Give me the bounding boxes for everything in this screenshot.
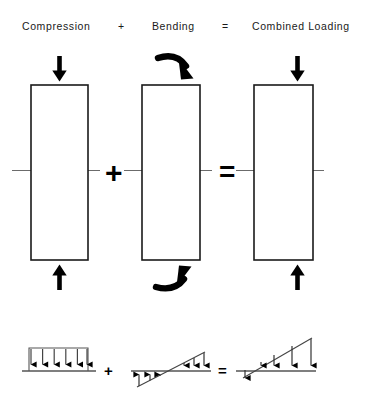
uniform-stress-profile	[29, 348, 88, 371]
bending-stress-compression-arrows	[184, 353, 204, 366]
compression-top-down-arrow	[52, 56, 66, 82]
compression-bottom-up-arrow	[52, 265, 66, 291]
combined-stress-profile	[243, 338, 312, 378]
combined-top-down-arrow	[290, 56, 304, 82]
superposition-diagram: Compression + Bending = Combined Loading…	[0, 0, 378, 415]
uniform-compression-stress-diagram	[22, 348, 96, 371]
bending-top-moment-arrow	[158, 56, 194, 79]
bending-stress-profile	[137, 352, 205, 387]
combined-column	[236, 56, 328, 290]
combined-bottom-up-arrow	[290, 265, 304, 291]
combined-stress-diagram	[236, 338, 316, 378]
combined-column-body	[254, 85, 313, 260]
compression-column-body	[31, 85, 88, 260]
diagram-canvas	[0, 0, 378, 415]
compression-column	[12, 56, 104, 290]
bending-stress-diagram	[131, 352, 211, 387]
bending-column-body	[142, 85, 200, 260]
bending-bottom-moment-arrow	[156, 266, 192, 289]
uniform-stress-arrows	[31, 349, 87, 365]
bending-column	[124, 56, 216, 288]
